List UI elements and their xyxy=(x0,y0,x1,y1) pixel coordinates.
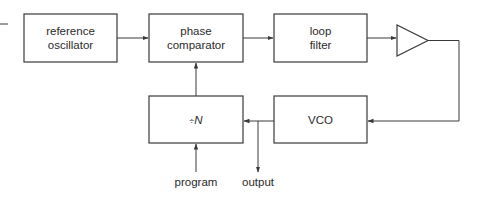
phase-comparator-label-line2: comparator xyxy=(167,39,225,51)
pll-block-diagram: reference oscillator phase comparator lo… xyxy=(0,0,482,203)
wire-amplifier-to-vco xyxy=(368,41,459,122)
loop-filter-block: loop filter xyxy=(274,14,367,62)
output-label: output xyxy=(242,176,275,188)
loop-filter-label-line2: filter xyxy=(310,39,332,51)
reference-oscillator-label-line2: oscillator xyxy=(48,39,94,51)
divider-n: N xyxy=(194,114,203,126)
vco-block: VCO xyxy=(274,96,367,143)
phase-comparator-block: phase comparator xyxy=(149,14,243,62)
divider-block: ÷N xyxy=(149,96,243,143)
vco-label: VCO xyxy=(308,114,333,126)
reference-oscillator-block: reference oscillator xyxy=(24,14,117,62)
program-label: program xyxy=(175,176,218,188)
loop-filter-label-line1: loop xyxy=(310,25,332,37)
reference-oscillator-label-line1: reference xyxy=(46,25,95,37)
phase-comparator-label-line1: phase xyxy=(180,25,211,37)
amplifier-triangle-icon xyxy=(397,25,428,56)
divider-label: ÷N xyxy=(189,114,203,126)
